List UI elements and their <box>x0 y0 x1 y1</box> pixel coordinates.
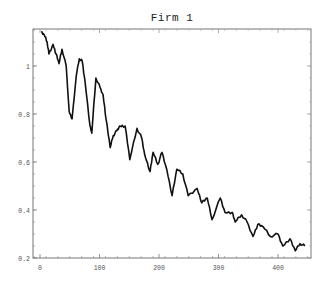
x-tick-label: 0 <box>38 265 42 272</box>
x-tick-label: 100 <box>94 265 106 272</box>
plot-frame <box>33 29 311 258</box>
y-tick-label: 0.6 <box>18 160 30 167</box>
axis-ticks <box>33 29 311 258</box>
y-tick-label: 0.4 <box>18 208 30 215</box>
x-tick-label: 300 <box>213 265 225 272</box>
y-tick-label: 0.8 <box>18 112 30 119</box>
x-tick-label: 200 <box>153 265 165 272</box>
y-tick-label: 1 <box>26 64 30 71</box>
line-chart: 01002003004000.20.40.60.81 <box>0 0 326 287</box>
y-tick-label: 0.2 <box>18 256 30 263</box>
x-tick-label: 400 <box>272 265 284 272</box>
data-line <box>41 32 305 251</box>
